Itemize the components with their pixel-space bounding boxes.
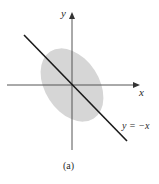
line-y-equals-minus-x [24,35,127,141]
diagram-canvas [0,0,159,184]
figure-a: y x y = −x (a) [0,0,159,184]
line-equation-label: y = −x [122,121,149,131]
figure-caption: (a) [63,161,74,171]
y-axis-label: y [61,8,66,19]
x-axis-label: x [139,87,144,98]
y-axis-arrow-icon [69,12,75,19]
